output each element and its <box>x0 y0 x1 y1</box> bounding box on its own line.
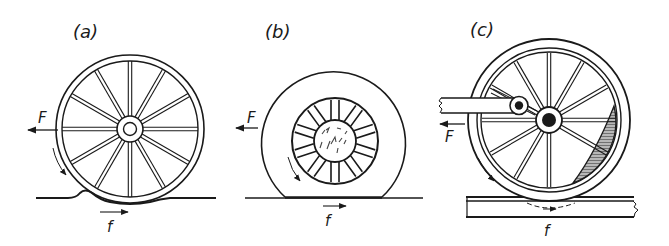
connecting-rod <box>439 97 528 115</box>
panel-a: (a) <box>28 21 216 236</box>
panel-c: (c) f <box>439 19 638 240</box>
panel-b-label: (b) <box>265 21 290 42</box>
force-label-a: F <box>38 109 47 127</box>
wheel-friction-figure: (a) <box>0 0 669 246</box>
force-label-b: F <box>247 109 256 127</box>
friction-label-b: f <box>325 212 333 230</box>
panel-c-label: (c) <box>470 19 494 40</box>
locomotive-wheel <box>468 39 630 201</box>
friction-label-a: f <box>107 218 115 236</box>
pneumatic-tyre <box>262 72 406 197</box>
panel-a-label: (a) <box>73 21 98 42</box>
force-label-c: F <box>445 128 454 146</box>
friction-label-c: f <box>544 222 552 240</box>
tyre-hub <box>292 98 378 184</box>
spoked-wheel-a <box>56 55 204 203</box>
panel-b: (b) <box>236 21 423 230</box>
rotation-arrow-b <box>288 157 300 181</box>
